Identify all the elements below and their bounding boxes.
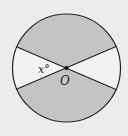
angle-label: x° (38, 63, 50, 76)
circle-figure: x° O (0, 0, 128, 136)
circle-diagram: x° O (0, 0, 128, 136)
center-label: O (60, 74, 70, 88)
center-point (65, 66, 69, 70)
